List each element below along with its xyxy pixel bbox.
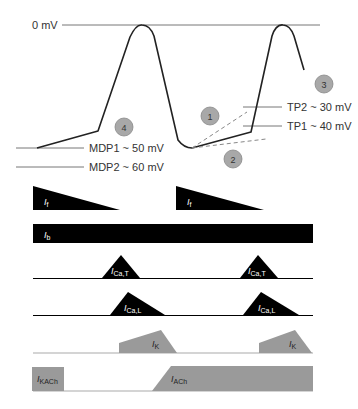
ik-pulse-2	[259, 330, 312, 353]
phase-badge-2: 2	[224, 150, 242, 168]
zero-mv-label: 0 mV	[32, 19, 58, 31]
slope-dashed-1	[192, 112, 247, 148]
svg-text:3: 3	[321, 80, 326, 90]
ik-pulse-1	[119, 330, 177, 353]
pacemaker-action-potential-diagram: 0 mV MDP1 ~ 50 mV MDP2 ~ 60 mV TP2 ~ 30 …	[0, 0, 358, 409]
svg-text:2: 2	[230, 155, 235, 165]
tp2-label: TP2 ~ 30 mV	[287, 101, 352, 113]
svg-text:4: 4	[121, 123, 126, 133]
phase-badge-3: 3	[315, 75, 333, 93]
slope-dashed-2	[192, 139, 266, 148]
action-potential-trace	[37, 25, 304, 148]
tp1-label: TP1 ~ 40 mV	[287, 120, 352, 132]
phase-badge-1: 1	[201, 107, 219, 125]
mdp2-label: MDP2 ~ 60 mV	[89, 161, 165, 173]
ib-current-bar	[33, 224, 313, 243]
mdp1-label: MDP1 ~ 50 mV	[89, 142, 165, 154]
svg-text:1: 1	[207, 112, 212, 122]
phase-badge-4: 4	[115, 118, 133, 136]
